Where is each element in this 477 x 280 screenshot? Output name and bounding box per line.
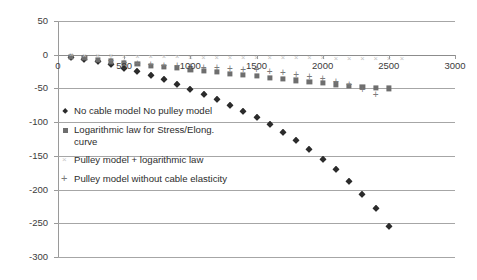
- x-tick-mark: [190, 55, 191, 59]
- data-point: +: [146, 60, 156, 70]
- legend-marker-plus-icon: +: [60, 173, 72, 185]
- data-point: +: [291, 70, 301, 80]
- legend-item[interactable]: +Pulley model without cable elasticity: [60, 173, 320, 185]
- data-point: +: [357, 85, 367, 95]
- x-tick-label: 1500: [246, 61, 267, 71]
- gridline-y--300: [58, 257, 455, 258]
- chart-root: 500-50-100-150-200-250-300 ×××××××××××××…: [0, 0, 477, 280]
- legend-marker-square-icon: [60, 124, 72, 136]
- x-tick-label: 0: [55, 61, 60, 71]
- data-point: +: [225, 64, 235, 74]
- y-tick-label: -150: [0, 151, 48, 161]
- y-tick-label: 0: [0, 50, 48, 60]
- legend-marker-cross-icon: ×: [60, 154, 72, 166]
- legend-label: Pulley model without cable elasticity: [74, 173, 227, 185]
- data-point: +: [304, 72, 314, 82]
- chart-legend: No cable model No pulley modelLogarithmi…: [60, 105, 320, 192]
- x-tick-mark: [389, 55, 390, 59]
- legend-label: Pulley model + logarithmic law: [74, 154, 203, 166]
- data-point: +: [371, 90, 381, 100]
- x-tick-mark: [455, 55, 456, 59]
- data-point: +: [278, 68, 288, 78]
- x-tick-label: 2000: [312, 61, 333, 71]
- legend-item[interactable]: No cable model No pulley model: [60, 105, 320, 117]
- y-tick-label: -300: [0, 252, 48, 262]
- legend-item[interactable]: Logarithmic law for Stress/Elong. curve: [60, 124, 320, 147]
- y-tick-label: -250: [0, 218, 48, 228]
- x-tick-label: 2500: [378, 61, 399, 71]
- data-point: +: [331, 76, 341, 86]
- legend-item[interactable]: ×Pulley model + logarithmic law: [60, 154, 320, 166]
- x-tick-mark: [58, 55, 59, 59]
- x-tick-label: 1000: [180, 61, 201, 71]
- y-tick-label: 50: [0, 16, 48, 26]
- data-point: +: [159, 60, 169, 70]
- y-tick-label: -200: [0, 185, 48, 195]
- data-point: +: [132, 59, 142, 69]
- legend-label: No cable model No pulley model: [74, 105, 212, 117]
- legend-marker-diamond-icon: [60, 105, 72, 117]
- data-point: +: [318, 74, 328, 84]
- data-point: +: [344, 80, 354, 90]
- data-point: +: [106, 56, 116, 66]
- x-tick-label: 3000: [444, 61, 465, 71]
- y-tick-label: -50: [0, 83, 48, 93]
- x-tick-mark: [124, 55, 125, 59]
- data-point: +: [212, 63, 222, 73]
- x-tick-label: 500: [116, 61, 132, 71]
- y-tick-label: -100: [0, 117, 48, 127]
- x-tick-mark: [323, 55, 324, 59]
- legend-label: Logarithmic law for Stress/Elong. curve: [74, 124, 214, 147]
- x-tick-mark: [257, 55, 258, 59]
